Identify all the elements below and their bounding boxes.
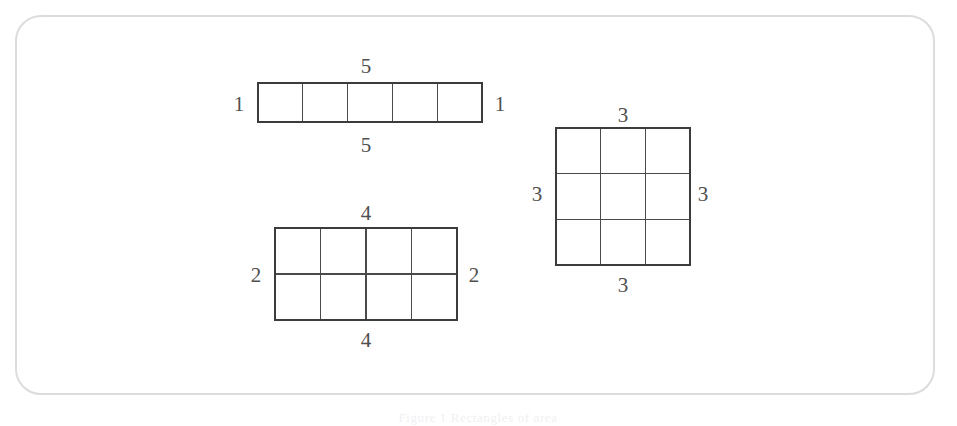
grid-outline: [258, 83, 482, 122]
dimension-label-bottom: 3: [618, 275, 629, 296]
grid-outline: [556, 128, 690, 265]
dimension-label-top: 4: [361, 203, 372, 224]
four-by-two-rectangle: [275, 228, 457, 320]
dimension-label-top: 3: [618, 105, 629, 126]
dimension-label-left: 1: [234, 94, 245, 115]
dimension-label-right: 3: [698, 184, 709, 205]
figure-caption: Figure 1 Rectangles of area: [398, 410, 557, 426]
dimension-label-right: 2: [469, 265, 480, 286]
one-by-five-strip: [258, 83, 482, 122]
dimension-label-left: 2: [251, 265, 262, 286]
dimension-label-left: 3: [532, 184, 543, 205]
dimension-label-bottom: 5: [361, 135, 372, 156]
dimension-label-top: 5: [361, 56, 372, 77]
three-by-three-square: [556, 128, 690, 265]
dimension-label-right: 1: [495, 94, 506, 115]
dimension-label-bottom: 4: [361, 330, 372, 351]
